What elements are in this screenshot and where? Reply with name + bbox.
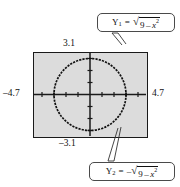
calculator-screen — [33, 52, 148, 138]
y2-radical: √ 9–x2 — [131, 165, 158, 179]
xmin-label: –4.7 — [3, 88, 20, 98]
ymax-label: 3.1 — [63, 38, 75, 48]
y1-equals: = — [125, 18, 130, 27]
y2-variable: Y2 — [106, 167, 116, 177]
y1-variable: Y1 — [112, 18, 122, 28]
plot-graphic — [34, 53, 146, 136]
radical-sign-icon: √ — [131, 164, 137, 178]
formula-y1: Y1 = √ 9–x2 — [112, 16, 160, 30]
y2-subscript: 2 — [112, 169, 115, 176]
radical-sign-icon: √ — [133, 15, 139, 29]
y1-subscript: 1 — [119, 20, 122, 27]
formula-y2: Y2 = – √ 9–x2 — [106, 165, 158, 179]
y2-equals: = — [119, 167, 124, 176]
leader-line-y1-a — [112, 33, 122, 45]
callout-y1: Y1 = √ 9–x2 — [97, 13, 175, 32]
y1-radicand: 9–x2 — [139, 17, 160, 30]
xmax-label: 4.7 — [152, 88, 164, 98]
callout-y2: Y2 = – √ 9–x2 — [89, 162, 175, 181]
figure-container: 3.1 –3.1 –4.7 4.7 Y1 = √ 9–x2 Y2 = – — [0, 0, 180, 187]
y2-radicand: 9–x2 — [137, 166, 158, 179]
leader-line-y1-b — [118, 33, 126, 44]
y1-radical: √ 9–x2 — [133, 16, 160, 30]
ymin-label: –3.1 — [59, 138, 76, 148]
